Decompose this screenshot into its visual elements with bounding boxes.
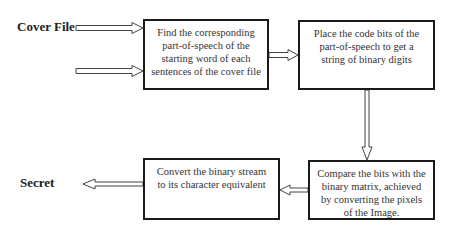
secret-label: Secret [20, 175, 54, 191]
node-place-code-bits: Place the code bits of the part-of-speec… [298, 20, 435, 90]
arrow-compare-to-convert [280, 185, 308, 195]
node-find-part-of-speech: Find the corresponding part-of-speech of… [143, 19, 269, 90]
arrow-find-to-place [269, 50, 298, 61]
arrow-second-input-to-find [76, 66, 143, 77]
arrow-cover-file-to-find [76, 23, 143, 34]
arrow-convert-to-secret [83, 179, 143, 189]
cover-file-label: Cover File [17, 19, 75, 35]
node-compare-bits: Compare the bits with the binary matrix,… [308, 160, 435, 220]
node-convert-binary-stream: Convert the binary stream to its charact… [143, 158, 280, 220]
arrow-place-to-compare [362, 90, 372, 160]
